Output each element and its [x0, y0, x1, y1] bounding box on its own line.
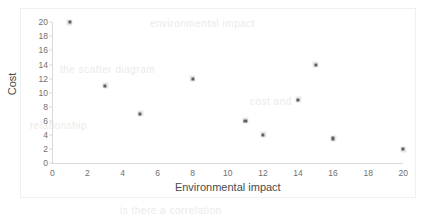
y-tick-mark — [49, 92, 52, 93]
x-axis-line — [52, 163, 403, 164]
y-tick-label: 2 — [43, 144, 48, 154]
scatter-chart-figure: environmental impactthe scatter diagramc… — [0, 0, 426, 215]
x-axis-title: Environmental impact — [52, 181, 403, 193]
y-tick-mark — [49, 148, 52, 149]
scatter-point — [402, 147, 405, 150]
y-tick-mark — [49, 36, 52, 37]
scatter-point — [332, 137, 335, 140]
scatter-point — [103, 84, 106, 87]
y-tick-label: 10 — [39, 88, 48, 98]
plot-area-frame — [20, 8, 416, 198]
y-tick-mark — [49, 78, 52, 79]
scatter-point — [244, 119, 247, 122]
y-tick-mark — [49, 106, 52, 107]
x-tick-label: 6 — [155, 168, 160, 178]
scatter-point — [138, 112, 141, 115]
y-tick-label: 0 — [43, 158, 48, 168]
scatter-point — [68, 21, 71, 24]
x-tick-label: 4 — [120, 168, 125, 178]
y-axis-line — [52, 22, 53, 163]
scatter-point — [191, 77, 194, 80]
y-tick-label: 16 — [39, 45, 48, 55]
y-tick-mark — [49, 64, 52, 65]
y-tick-mark — [49, 50, 52, 51]
y-tick-mark — [49, 22, 52, 23]
scatter-point — [261, 133, 264, 136]
y-tick-mark — [49, 120, 52, 121]
y-tick-label: 20 — [39, 17, 48, 27]
x-tick-label: 10 — [223, 168, 232, 178]
x-tick-label: 12 — [258, 168, 267, 178]
y-tick-label: 4 — [43, 130, 48, 140]
x-tick-label: 2 — [85, 168, 90, 178]
y-tick-label: 8 — [43, 102, 48, 112]
x-tick-label: 14 — [293, 168, 302, 178]
scatter-point — [296, 98, 299, 101]
y-tick-label: 12 — [39, 74, 48, 84]
scatter-point — [314, 63, 317, 66]
x-tick-label: 20 — [399, 168, 408, 178]
y-tick-label: 14 — [39, 60, 48, 70]
y-tick-label: 18 — [39, 31, 48, 41]
bleedthrough-text: is there a correlation — [120, 205, 222, 215]
y-tick-label: 6 — [43, 116, 48, 126]
y-tick-mark — [49, 163, 52, 164]
x-tick-label: 0 — [50, 168, 55, 178]
y-tick-mark — [49, 134, 52, 135]
y-axis-title: Cost — [6, 54, 18, 114]
x-tick-label: 16 — [328, 168, 337, 178]
x-tick-label: 18 — [363, 168, 372, 178]
x-tick-label: 8 — [190, 168, 195, 178]
